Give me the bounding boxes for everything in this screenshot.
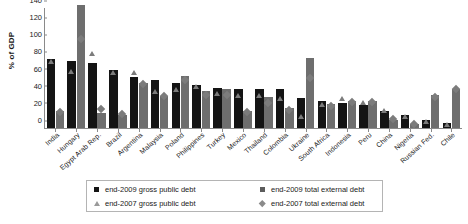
legend-label: end-2007 gross public debt xyxy=(105,199,195,208)
legend-item-end-2007-total-external-debt: end-2007 total external debt xyxy=(258,199,382,208)
marker-gross-public-debt-2007 xyxy=(131,70,137,75)
bar-gross-public-debt-2009[interactable] xyxy=(151,80,160,128)
legend-item-end-2007-gross-public-debt: end-2007 gross public debt xyxy=(92,199,258,208)
bar-group[interactable] xyxy=(170,8,191,128)
marker-gross-public-debt-2007 xyxy=(298,114,304,119)
y-axis-tick: 0 xyxy=(24,116,44,125)
bar-gross-public-debt-2009[interactable] xyxy=(338,103,347,128)
x-axis-label: Peru xyxy=(357,131,373,146)
x-axis-label: China xyxy=(375,131,394,149)
diamond-icon xyxy=(258,201,267,206)
marker-gross-public-debt-2007 xyxy=(68,69,74,74)
bar-group[interactable] xyxy=(358,8,379,128)
y-axis-tick: 60 xyxy=(24,64,44,73)
bar-total-external-debt-2009[interactable] xyxy=(452,89,461,128)
marker-gross-public-debt-2007 xyxy=(214,91,220,96)
y-axis-tick: 140 xyxy=(24,0,44,5)
bar-group[interactable] xyxy=(87,8,108,128)
x-axis-label: Chile xyxy=(439,131,456,147)
legend-label: end-2009 gross public debt xyxy=(105,185,195,194)
y-axis-tick: 100 xyxy=(24,30,44,39)
bar-group[interactable] xyxy=(295,8,316,128)
bar-group[interactable] xyxy=(441,8,462,128)
chart-legend: end-2009 gross public debt end-2009 tota… xyxy=(86,180,383,212)
square-icon xyxy=(92,187,101,192)
plot-area: 020406080100120140 xyxy=(44,8,462,129)
x-axis-line xyxy=(44,128,462,129)
y-axis-title: % of GDP xyxy=(7,16,16,86)
bar-gross-public-debt-2009[interactable] xyxy=(297,98,306,128)
marker-gross-public-debt-2007 xyxy=(193,84,199,89)
bar-gross-public-debt-2009[interactable] xyxy=(47,59,56,128)
x-label-cell: Indonesia xyxy=(337,130,358,174)
legend-label: end-2009 total external debt xyxy=(271,185,364,194)
y-axis-tick: 40 xyxy=(24,81,44,90)
y-axis-tick: 80 xyxy=(24,47,44,56)
bar-gross-public-debt-2009[interactable] xyxy=(380,111,389,128)
bar-group[interactable] xyxy=(149,8,170,128)
x-axis-labels: IndiaHungaryEgypt Arab Rep.BrazilArgenti… xyxy=(45,130,462,174)
marker-gross-public-debt-2007 xyxy=(173,87,179,92)
bar-total-external-debt-2009[interactable] xyxy=(139,83,148,128)
bar-groups xyxy=(45,8,462,128)
marker-gross-public-debt-2007 xyxy=(152,89,158,94)
bar-total-external-debt-2009[interactable] xyxy=(306,58,315,128)
bar-group[interactable] xyxy=(274,8,295,128)
bar-group[interactable] xyxy=(379,8,400,128)
y-axis-tick: 120 xyxy=(24,13,44,22)
x-label-cell: Chile xyxy=(441,130,462,174)
bar-group[interactable] xyxy=(316,8,337,128)
marker-gross-public-debt-2007 xyxy=(360,100,366,105)
marker-gross-public-debt-2007 xyxy=(235,93,241,98)
bar-group[interactable] xyxy=(212,8,233,128)
bar-group[interactable] xyxy=(399,8,420,128)
bar-group[interactable] xyxy=(253,8,274,128)
x-axis-label: India xyxy=(44,131,60,147)
x-label-cell: Malaysia xyxy=(149,130,170,174)
bar-group[interactable] xyxy=(420,8,441,128)
bar-group[interactable] xyxy=(337,8,358,128)
bar-total-external-debt-2009[interactable] xyxy=(77,5,86,128)
x-axis-label: Brazil xyxy=(104,131,122,148)
marker-gross-public-debt-2007 xyxy=(339,96,345,101)
x-label-cell: Peru xyxy=(358,130,379,174)
bar-group[interactable] xyxy=(191,8,212,128)
x-label-cell: Philippines xyxy=(191,130,212,174)
triangle-icon xyxy=(92,201,101,206)
bar-group[interactable] xyxy=(108,8,129,128)
marker-gross-public-debt-2007 xyxy=(89,51,95,56)
bar-gross-public-debt-2009[interactable] xyxy=(109,70,118,128)
marker-gross-public-debt-2007 xyxy=(444,122,450,127)
y-axis-tick: 20 xyxy=(24,98,44,107)
bar-gross-public-debt-2009[interactable] xyxy=(359,105,368,128)
legend-item-end-2009-total-external-debt: end-2009 total external debt xyxy=(258,185,382,194)
marker-gross-public-debt-2007 xyxy=(110,70,116,75)
square-icon xyxy=(258,187,267,192)
bar-gross-public-debt-2009[interactable] xyxy=(130,77,139,128)
marker-gross-public-debt-2007 xyxy=(277,96,283,101)
marker-gross-public-debt-2007 xyxy=(381,108,387,113)
legend-label: end-2007 total external debt xyxy=(271,199,364,208)
bar-group[interactable] xyxy=(45,8,66,128)
bar-gross-public-debt-2009[interactable] xyxy=(88,63,97,128)
bar-group[interactable] xyxy=(66,8,87,128)
bar-total-external-debt-2009[interactable] xyxy=(97,113,106,128)
bar-group[interactable] xyxy=(233,8,254,128)
bar-total-external-debt-2009[interactable] xyxy=(160,96,169,128)
marker-gross-public-debt-2007 xyxy=(423,119,429,124)
bar-group[interactable] xyxy=(128,8,149,128)
marker-gross-public-debt-2007 xyxy=(48,59,54,64)
marker-gross-public-debt-2007 xyxy=(256,93,262,98)
chart-figure: % of GDP 020406080100120140 IndiaHungary… xyxy=(0,0,468,224)
x-label-cell: Egypt Arab Rep. xyxy=(87,130,108,174)
bar-gross-public-debt-2009[interactable] xyxy=(192,85,201,128)
legend-item-end-2009-gross-public-debt: end-2009 gross public debt xyxy=(92,185,258,194)
x-label-cell: China xyxy=(379,130,400,174)
marker-gross-public-debt-2007 xyxy=(319,102,325,107)
marker-total-external-debt-2007 xyxy=(97,105,105,113)
marker-gross-public-debt-2007 xyxy=(402,114,408,119)
x-label-cell: Turkey xyxy=(212,130,233,174)
x-label-cell: Russian Fed. xyxy=(420,130,441,174)
